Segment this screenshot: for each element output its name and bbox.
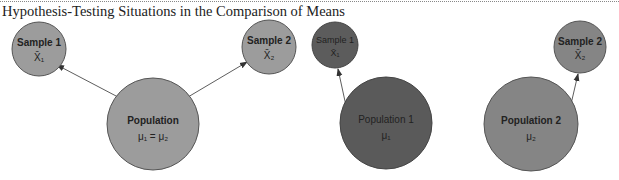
population-label: Population [127,115,179,126]
arrow-to-sample1 [57,65,118,97]
population1-label: Population 1 [358,114,414,125]
population-node: Population μ₁ = μ₂ [107,78,199,170]
sample2-right-node: Sample 2 X̄₂ [554,21,606,73]
left-diagram: Sample 1 X̄₁ Sample 2 X̄₂ Population μ₁ … [12,20,296,170]
right-diagram: Sample 2 X̄₂ Population 2 μ₂ [484,21,606,171]
sample2-right-stat: X̄₂ [575,49,586,61]
sample2-stat: X̄₂ [264,49,275,61]
population1-node: Population 1 μ₁ [340,77,432,169]
sample1-middle-node: Sample 1 X̄₁ [312,22,358,68]
population-param: μ₁ = μ₂ [138,131,168,142]
sample2-label: Sample 2 [247,35,291,46]
middle-diagram: Sample 1 X̄₁ Population 1 μ₁ [312,22,432,169]
population2-label: Population 2 [501,115,561,126]
population2-node: Population 2 μ₂ [484,77,578,171]
sample1-middle-label: Sample 1 [316,35,354,45]
sample1-middle-stat: X̄₁ [330,48,339,58]
population1-param: μ₁ [381,130,391,141]
population2-param: μ₂ [526,131,536,142]
sample1-stat: X̄₁ [34,51,45,63]
sample2-right-label: Sample 2 [558,36,602,47]
sample2-node: Sample 2 X̄₂ [242,20,296,74]
sample1-label: Sample 1 [17,37,61,48]
arrow-to-sample2 [188,62,247,97]
sample1-node: Sample 1 X̄₁ [12,22,66,76]
diagram-canvas: Sample 1 X̄₁ Sample 2 X̄₂ Population μ₁ … [0,0,619,180]
